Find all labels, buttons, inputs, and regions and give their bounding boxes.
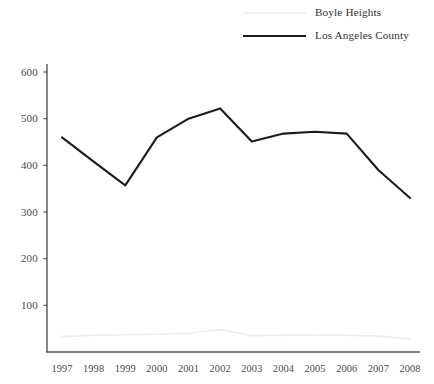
series-line-los-angeles-county [62,108,410,198]
x-axis-tick-label: 2003 [235,364,269,374]
x-axis-tick-label: 2001 [172,364,206,374]
plot-area [0,0,434,384]
x-axis-tick-label: 2005 [298,364,332,374]
line-chart: Boyle Heights Los Angeles County 1002003… [0,0,434,384]
x-axis-tick-label: 2004 [266,364,300,374]
x-axis-tick-label: 2000 [140,364,174,374]
x-axis-tick-label: 2006 [330,364,364,374]
x-axis-tick-label: 2007 [361,364,395,374]
x-axis-tick-label: 2008 [393,364,427,374]
y-axis-tick-label: 200 [4,253,38,264]
y-axis-tick-label: 600 [4,67,38,78]
x-axis-tick-label: 1999 [108,364,142,374]
series-line-boyle-heights [62,330,410,339]
series-lines [62,108,410,339]
y-axis-tick-label: 300 [4,207,38,218]
x-axis-tick-label: 1998 [77,364,111,374]
x-axis-tick-label: 1997 [45,364,79,374]
y-axis-tick-label: 400 [4,160,38,171]
y-axis-tick-label: 100 [4,300,38,311]
axis-lines [46,64,420,352]
x-axis-tick-label: 2002 [203,364,237,374]
y-axis-tick-label: 500 [4,113,38,124]
